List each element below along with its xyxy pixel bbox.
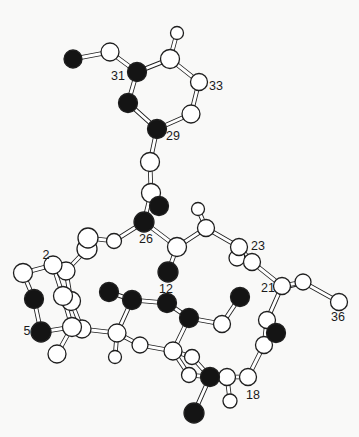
atom-W4-white bbox=[191, 74, 208, 91]
atom-W3-white bbox=[171, 27, 184, 40]
atom-W32-white bbox=[192, 203, 205, 216]
atom-W36-white bbox=[244, 254, 261, 271]
atom-B6-black bbox=[134, 212, 154, 232]
atom-W16-white bbox=[63, 318, 82, 337]
atom-B9-black bbox=[123, 291, 142, 310]
atom-B11-black bbox=[180, 309, 199, 328]
atom-W31-white bbox=[168, 238, 187, 257]
atom-B7-black bbox=[158, 262, 178, 282]
molecule-svg: 31332926251223213618 bbox=[0, 0, 359, 437]
atom-B16-black bbox=[201, 368, 220, 387]
atom-W8-white bbox=[107, 234, 122, 249]
atom-W25-white bbox=[219, 369, 236, 386]
atom-number-23: 23 bbox=[251, 239, 265, 253]
atom-B1-black bbox=[64, 50, 82, 68]
atom-W33-white bbox=[198, 220, 215, 237]
atom-B4-black bbox=[148, 120, 167, 139]
atom-W13-white bbox=[14, 264, 33, 283]
molecule-figure: 31332926251223213618 bbox=[0, 0, 359, 437]
atom-W19-white bbox=[108, 324, 126, 342]
atom-number-36: 36 bbox=[331, 310, 345, 324]
atom-B2-black bbox=[128, 63, 147, 82]
atom-number-2: 2 bbox=[43, 248, 50, 262]
atom-W2-white bbox=[161, 50, 180, 69]
atom-W39-white bbox=[331, 294, 348, 311]
atom-W24-white bbox=[182, 368, 197, 383]
atom-W30-white bbox=[214, 316, 231, 333]
atom-W34-white bbox=[231, 239, 248, 256]
atom-number-29: 29 bbox=[166, 129, 180, 143]
atom-W1-white bbox=[101, 43, 119, 61]
atom-number-12: 12 bbox=[159, 282, 173, 296]
atom-B5-black bbox=[150, 197, 169, 216]
atom-B17-black bbox=[184, 403, 204, 423]
atom-W9-white bbox=[78, 228, 98, 248]
atom-B3-black bbox=[119, 94, 138, 113]
atom-number-21: 21 bbox=[261, 281, 275, 295]
atom-number-18: 18 bbox=[246, 388, 260, 402]
atom-W38-white bbox=[295, 274, 311, 290]
atom-W5-white bbox=[182, 105, 200, 123]
atom-number-31: 31 bbox=[111, 69, 125, 83]
atom-B14-black bbox=[231, 288, 250, 307]
atom-W26-white bbox=[223, 394, 237, 408]
atom-W37-white bbox=[274, 278, 291, 295]
atom-W27-white bbox=[240, 369, 257, 386]
atom-W22-white bbox=[164, 342, 182, 360]
atom-number-5: 5 bbox=[24, 324, 31, 338]
atom-W21-white bbox=[132, 337, 148, 353]
atom-W23-white bbox=[185, 350, 200, 365]
atom-number-26: 26 bbox=[139, 232, 153, 246]
atom-B8-black bbox=[100, 283, 119, 302]
atom-B10-black bbox=[158, 294, 177, 313]
atom-B13-black bbox=[31, 322, 51, 342]
atom-number-33: 33 bbox=[209, 79, 223, 93]
atom-B15-black bbox=[267, 324, 286, 343]
atom-B12-black bbox=[25, 290, 44, 309]
atom-W18-white bbox=[48, 345, 66, 363]
atom-W6-white bbox=[141, 153, 160, 172]
atom-W20-white bbox=[109, 351, 122, 364]
atom-W14-white bbox=[54, 287, 73, 306]
